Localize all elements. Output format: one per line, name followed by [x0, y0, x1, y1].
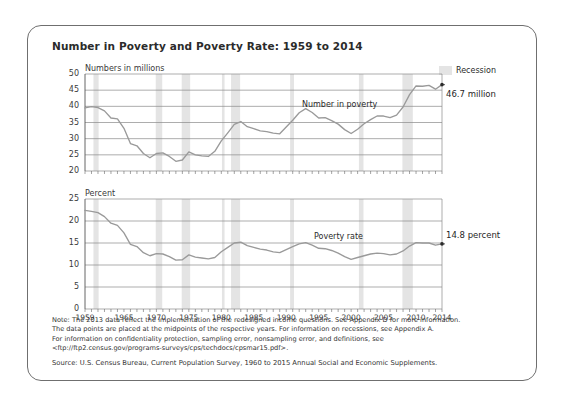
note-line-3: For information on confidentiality prote… [52, 335, 504, 344]
y-tick-label: 35 [63, 118, 79, 127]
series-label-number-in-poverty: Number in poverty [302, 100, 377, 109]
x-tick-label: 2000 [336, 313, 366, 322]
figure-card: Number in Poverty and Poverty Rate: 1959… [27, 25, 537, 381]
x-tick-label: 1975 [174, 313, 204, 322]
y-tick-label: 10 [63, 260, 79, 269]
y-tick-label: 25 [63, 194, 79, 203]
note-line-4: <ftp://ftp2.census.gov/programs-surveys/… [52, 344, 504, 353]
y-tick-label: 0 [63, 304, 79, 313]
y-tick-label: 50 [63, 69, 79, 78]
x-tick-label: 1990 [271, 313, 301, 322]
figure-source: Source: U.S. Census Bureau, Current Popu… [52, 359, 504, 367]
x-tick-label: 1985 [239, 313, 269, 322]
y-tick-label: 15 [63, 238, 79, 247]
series-label-poverty-rate: Poverty rate [314, 232, 363, 241]
y-tick-label: 30 [63, 134, 79, 143]
x-tick-label: 1965 [109, 313, 139, 322]
annotation-46-7-million: 46.7 million [446, 89, 496, 99]
x-tick-label: 2014 [427, 313, 457, 322]
note-line-2: The data points are placed at the midpoi… [52, 325, 504, 334]
y-tick-label: 40 [63, 101, 79, 110]
y-tick-label: 25 [63, 150, 79, 159]
x-tick-label: 1959 [70, 313, 100, 322]
x-tick-label: 1970 [141, 313, 171, 322]
x-tick-label: 1980 [206, 313, 236, 322]
x-tick-label: 2005 [369, 313, 399, 322]
figure-notes: Note: The 2013 data reflect the implemen… [52, 316, 504, 367]
x-tick-label: 1995 [304, 313, 334, 322]
y-tick-label: 5 [63, 282, 79, 291]
annotation-14-8-percent: 14.8 percent [446, 230, 500, 240]
y-tick-label: 20 [63, 216, 79, 225]
y-tick-label: 45 [63, 85, 79, 94]
y-tick-label: 20 [63, 166, 79, 175]
